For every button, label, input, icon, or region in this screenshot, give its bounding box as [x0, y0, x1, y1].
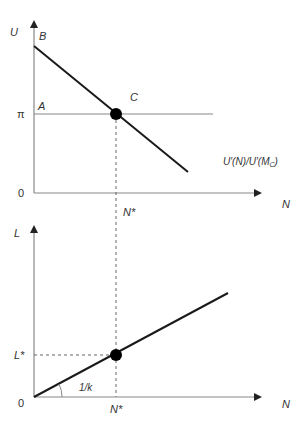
top-n-star-label: N*: [123, 206, 136, 218]
curve-label: U′(N)/U′(MC): [223, 156, 278, 168]
labor-line: [34, 293, 228, 397]
demand-curve-line: [34, 46, 188, 172]
point-a-label: A: [37, 100, 45, 112]
slope-angle-arc: [59, 384, 62, 397]
diagram-canvas: U B A C π 0 N U′(N)/U′(MC) N* L L* 0 1/k…: [0, 0, 305, 431]
bottom-origin-label: 0: [18, 397, 24, 409]
bottom-x-axis-label: N: [282, 398, 290, 410]
equilibrium-point-marker: [110, 349, 122, 361]
l-star-label: L*: [14, 349, 25, 361]
slope-label: 1/k: [79, 382, 93, 393]
bottom-panel: L L* 0 1/k N* N: [14, 227, 290, 415]
point-c-marker: [110, 108, 122, 120]
top-origin-label: 0: [18, 187, 24, 199]
top-panel: U B A C π 0 N U′(N)/U′(MC) N*: [10, 22, 290, 397]
point-b-label: B: [39, 30, 46, 42]
bottom-n-star-label: N*: [110, 403, 123, 415]
pi-tick-label: π: [17, 108, 25, 120]
bottom-y-axis-label: L: [14, 227, 20, 239]
top-y-axis-label: U: [10, 26, 18, 38]
point-c-label: C: [130, 91, 138, 103]
top-x-axis-label: N: [282, 198, 290, 210]
